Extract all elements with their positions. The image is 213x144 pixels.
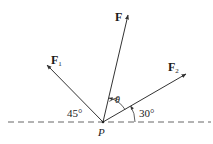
label-45-degrees: 45° (67, 107, 82, 119)
point-p (102, 121, 105, 124)
label-theta: θ (115, 94, 120, 105)
thirty-degree-arc (131, 106, 135, 122)
label-point-p: P (97, 126, 105, 138)
label-f2: F2 (168, 60, 179, 75)
vector-f (103, 15, 128, 122)
force-diagram: F F1 F2 θ 45° 30° P (0, 0, 213, 144)
label-f: F (115, 10, 122, 24)
label-30-degrees: 30° (139, 107, 154, 119)
label-f1: F1 (51, 53, 62, 68)
